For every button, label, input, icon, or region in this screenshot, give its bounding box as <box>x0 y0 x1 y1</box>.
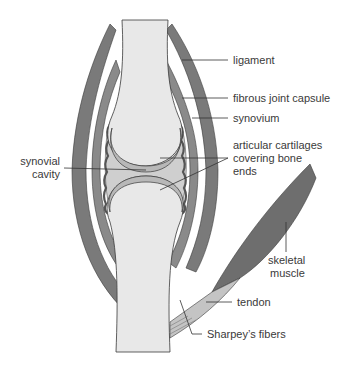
label-fibrous-capsule: fibrous joint capsule <box>233 92 330 105</box>
synovial-joint-diagram <box>0 0 350 376</box>
label-sharpeys-fibers: Sharpey’s fibers <box>207 328 286 341</box>
label-cavity-1: synovial <box>6 155 60 168</box>
label-cartilage-1: articular cartilages <box>233 139 322 152</box>
label-cartilage-2: covering bone <box>233 152 302 165</box>
label-skeletal-muscle-1: skeletal <box>268 254 305 267</box>
label-cavity-2: cavity <box>6 168 60 181</box>
label-tendon: tendon <box>237 296 271 309</box>
label-cartilage-3: ends <box>233 165 257 178</box>
label-ligament: ligament <box>233 54 275 67</box>
label-synovium: synovium <box>233 112 279 125</box>
upper-bone <box>108 20 183 166</box>
label-skeletal-muscle-2: muscle <box>270 267 305 280</box>
